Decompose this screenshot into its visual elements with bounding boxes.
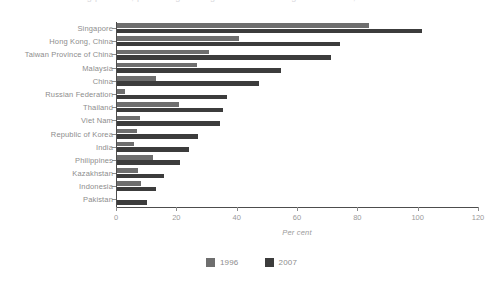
- bar-1996: [117, 63, 197, 68]
- x-tick-mark: [297, 207, 298, 211]
- x-tick-label: 0: [114, 213, 118, 222]
- bar-1996: [117, 76, 156, 81]
- y-tick-mark: [112, 120, 116, 121]
- category-label: Kazakhstan: [0, 167, 113, 180]
- y-tick-mark: [112, 186, 116, 187]
- bar-row: Philippines: [0, 154, 503, 167]
- category-label: Indonesia: [0, 180, 113, 193]
- bar-1996: [117, 50, 209, 55]
- y-tick-mark: [112, 54, 116, 55]
- x-tick-label: 100: [411, 213, 424, 222]
- bar-1996: [117, 129, 137, 134]
- bar-2007: [117, 95, 227, 100]
- bar-row: Republic of Korea: [0, 128, 503, 141]
- category-label: Taiwan Province of China: [0, 48, 113, 61]
- bar-1996: [117, 89, 125, 94]
- bar-row: Russian Federation: [0, 88, 503, 101]
- y-tick-mark: [112, 94, 116, 95]
- legend-swatch: [265, 258, 274, 267]
- chart-legend: 19962007: [0, 258, 503, 267]
- y-tick-mark: [112, 68, 116, 69]
- category-label: Pakistan: [0, 193, 113, 206]
- bar-row: Singapore: [0, 22, 503, 35]
- x-axis-title: Per cent: [116, 228, 478, 237]
- category-label: Viet Nam: [0, 114, 113, 127]
- bar-2007: [117, 187, 156, 192]
- bar-1996: [117, 181, 141, 186]
- bar-2007: [117, 134, 198, 139]
- x-tick-label: 20: [172, 213, 180, 222]
- y-tick-mark: [112, 41, 116, 42]
- y-tick-mark: [112, 199, 116, 200]
- bar-row: Viet Nam: [0, 114, 503, 127]
- bar-2007: [117, 55, 331, 60]
- legend-swatch: [206, 258, 215, 267]
- x-tick-label: 120: [472, 213, 485, 222]
- bar-row: Indonesia: [0, 180, 503, 193]
- bar-2007: [117, 42, 340, 47]
- category-label: Thailand: [0, 101, 113, 114]
- bar-2007: [117, 68, 281, 73]
- category-label: India: [0, 141, 113, 154]
- x-tick-mark: [418, 207, 419, 211]
- grouped-bar-chart: 020406080100120 Per cent SingaporeHong K…: [0, 0, 503, 290]
- bar-1996: [117, 102, 179, 107]
- bar-row: Hong Kong, China: [0, 35, 503, 48]
- bar-2007: [117, 160, 180, 165]
- bar-2007: [117, 200, 147, 205]
- bar-row: India: [0, 141, 503, 154]
- y-tick-mark: [112, 81, 116, 82]
- y-tick-mark: [112, 134, 116, 135]
- category-label: China: [0, 75, 113, 88]
- bar-2007: [117, 121, 220, 126]
- category-label: Hong Kong, China: [0, 35, 113, 48]
- bar-2007: [117, 108, 223, 113]
- bar-1996: [117, 36, 239, 41]
- legend-item[interactable]: 2007: [265, 258, 298, 267]
- category-label: Republic of Korea: [0, 128, 113, 141]
- x-tick-label: 40: [232, 213, 240, 222]
- x-tick-label: 80: [353, 213, 361, 222]
- bar-2007: [117, 174, 164, 179]
- x-tick-mark: [478, 207, 479, 211]
- x-tick-mark: [176, 207, 177, 211]
- bar-1996: [117, 23, 369, 28]
- bar-row: Pakistan: [0, 193, 503, 206]
- y-tick-mark: [112, 160, 116, 161]
- bar-2007: [117, 147, 189, 152]
- y-tick-mark: [112, 28, 116, 29]
- y-tick-mark: [112, 107, 116, 108]
- bar-row: Taiwan Province of China: [0, 48, 503, 61]
- category-label: Singapore: [0, 22, 113, 35]
- bar-1996: [117, 142, 134, 147]
- x-tick-label: 60: [293, 213, 301, 222]
- bar-row: Thailand: [0, 101, 503, 114]
- legend-label: 1996: [220, 258, 239, 267]
- category-label: Russian Federation: [0, 88, 113, 101]
- y-tick-mark: [112, 173, 116, 174]
- bar-1996: [117, 168, 138, 173]
- y-tick-mark: [112, 147, 116, 148]
- bar-row: Kazakhstan: [0, 167, 503, 180]
- category-label: Malaysia: [0, 62, 113, 75]
- x-tick-mark: [357, 207, 358, 211]
- bar-2007: [117, 81, 259, 86]
- bar-1996: [117, 155, 153, 160]
- x-tick-mark: [237, 207, 238, 211]
- category-label: Philippines: [0, 154, 113, 167]
- bar-rows: SingaporeHong Kong, ChinaTaiwan Province…: [0, 22, 503, 207]
- x-tick-mark: [116, 207, 117, 211]
- bar-2007: [117, 29, 422, 34]
- bar-1996: [117, 116, 140, 121]
- legend-item[interactable]: 1996: [206, 258, 239, 267]
- bar-row: Malaysia: [0, 62, 503, 75]
- bar-row: China: [0, 75, 503, 88]
- legend-label: 2007: [279, 258, 298, 267]
